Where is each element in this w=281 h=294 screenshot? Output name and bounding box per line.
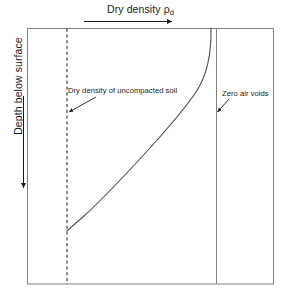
dry-density-curve — [67, 28, 211, 231]
annotation-arrow-uncompacted-soil — [69, 97, 96, 112]
annotation-arrow-zero-air-voids — [218, 99, 230, 112]
figure-container: Dry density ρd Depth below surface Dry d… — [0, 0, 281, 294]
plot-frame — [28, 29, 274, 285]
plot-svg — [0, 0, 281, 294]
